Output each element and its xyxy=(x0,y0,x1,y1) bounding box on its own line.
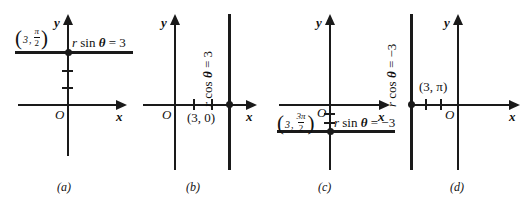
equation-label-c: r sin θ = −3 xyxy=(334,116,395,129)
equation-b-fn: cos xyxy=(200,81,215,98)
tick-x-minus2-d xyxy=(425,99,427,110)
point-dot-c xyxy=(327,128,334,135)
equation-c-equals: = xyxy=(371,115,378,130)
point-label-a-num: π xyxy=(34,27,41,37)
point-dot-a xyxy=(65,49,72,56)
origin-label-a: O xyxy=(55,108,64,121)
equation-b-value: 3 xyxy=(200,51,215,58)
point-label-b: (3, 0) xyxy=(187,110,215,126)
y-axis-a xyxy=(67,24,69,156)
paren-open-a: ( xyxy=(15,30,22,47)
equation-d-equals: = xyxy=(384,61,399,68)
y-axis-label-c: y xyxy=(316,16,322,29)
paren-close-c: ) xyxy=(308,115,315,132)
panel-a: x y O ( 3 , π 2 ) r sin θ = xyxy=(0,0,133,207)
paren-close-a: ) xyxy=(41,30,48,47)
y-axis-label-b: y xyxy=(161,16,167,29)
point-label-c: ( 3 , 3π 2 ) xyxy=(277,112,315,134)
equation-c-theta: θ xyxy=(361,115,368,130)
equation-label-d: r cos θ = −3 xyxy=(385,44,398,107)
point-label-a-den: 2 xyxy=(34,37,41,48)
equation-a-r: r xyxy=(72,35,77,50)
equation-a-value: 3 xyxy=(119,35,126,50)
equation-b-theta: θ xyxy=(200,71,215,78)
equation-d-fn: cos xyxy=(384,81,399,98)
origin-label-d: O xyxy=(445,108,454,121)
line-r-cos-theta-3 xyxy=(228,14,231,170)
equation-label-b: r cos θ = 3 xyxy=(201,51,214,107)
equation-a-theta: θ xyxy=(99,35,106,50)
panel-c: x y O ( 3 , 3π 2 ) r sin θ xyxy=(265,0,397,207)
point-label-c-num: 3π xyxy=(296,112,307,122)
line-r-cos-theta-minus3 xyxy=(410,14,413,170)
y-axis-b xyxy=(174,24,176,170)
y-axis-c xyxy=(329,24,331,170)
equation-c-fn: sin xyxy=(342,115,357,130)
panel-d: x y O (3, π) r cos θ = −3 (d) xyxy=(397,0,529,207)
tick-x-1-b xyxy=(193,99,195,110)
equation-a-fn: sin xyxy=(80,35,95,50)
point-label-c-den: 2 xyxy=(298,122,305,133)
panel-b: x y O (3, 0) r cos θ = 3 (b) xyxy=(133,0,265,207)
tick-x-minus1-d xyxy=(440,99,442,110)
equation-a-equals: = xyxy=(109,35,116,50)
caption-d: (d) xyxy=(450,180,464,195)
y-axis-label-d: y xyxy=(444,16,450,29)
point-label-a-r: 3 xyxy=(22,31,29,45)
equation-d-r: r xyxy=(384,102,399,107)
y-axis-arrow-d xyxy=(453,14,463,25)
x-axis-label-b: x xyxy=(246,110,253,123)
point-label-a: ( 3 , π 2 ) xyxy=(15,27,48,49)
point-label-a-fraction: π 2 xyxy=(33,27,42,49)
equation-c-r: r xyxy=(334,115,339,130)
tick-y-2-a xyxy=(62,70,73,72)
point-dot-d xyxy=(408,101,415,108)
polar-equation-figure: x y O ( 3 , π 2 ) r sin θ = xyxy=(0,0,529,207)
caption-b: (b) xyxy=(186,180,200,195)
caption-a: (a) xyxy=(57,180,71,195)
point-label-c-r: 3 xyxy=(284,116,291,130)
y-axis-arrow-c xyxy=(325,14,335,25)
origin-label-b: O xyxy=(162,108,171,121)
tick-y-1-a xyxy=(62,87,73,89)
x-axis-label-d: x xyxy=(509,110,516,123)
point-dot-b xyxy=(226,101,233,108)
equation-c-value: −3 xyxy=(381,115,395,130)
y-axis-d xyxy=(457,24,459,170)
paren-open-c: ( xyxy=(277,115,284,132)
equation-d-theta: θ xyxy=(384,71,399,78)
line-r-sin-theta-3 xyxy=(15,51,133,54)
equation-label-a: r sin θ = 3 xyxy=(72,36,126,49)
point-label-d: (3, π) xyxy=(419,79,447,95)
equation-b-equals: = xyxy=(200,61,215,68)
caption-c: (c) xyxy=(318,180,331,195)
x-axis-label-a: x xyxy=(116,110,123,123)
y-axis-label-a: y xyxy=(54,16,60,29)
equation-d-value: −3 xyxy=(384,44,399,58)
equation-b-r: r xyxy=(200,102,215,107)
y-axis-arrow-a xyxy=(63,14,73,25)
point-label-c-fraction: 3π 2 xyxy=(295,112,308,134)
y-axis-arrow-b xyxy=(170,14,180,25)
